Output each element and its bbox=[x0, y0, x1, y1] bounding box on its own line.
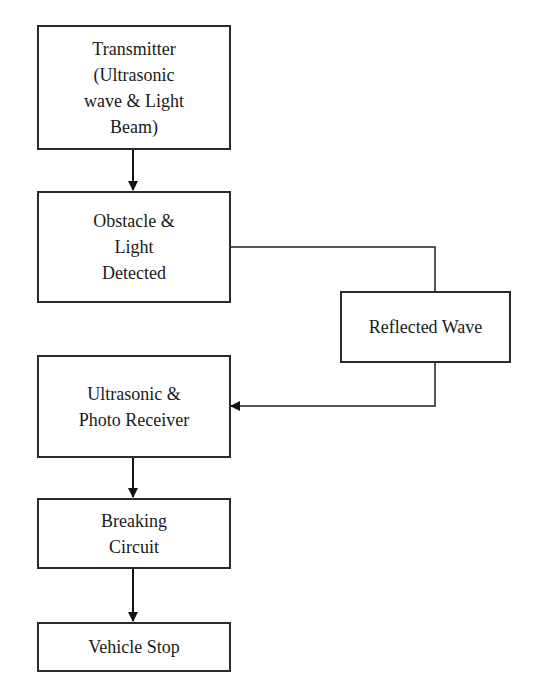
node-obstacle-detected: Obstacle & Light Detected bbox=[37, 191, 231, 303]
arrow-reflected-receiver bbox=[231, 362, 435, 406]
node-transmitter: Transmitter (Ultrasonic wave & Light Bea… bbox=[37, 25, 231, 150]
node-label: Reflected Wave bbox=[369, 314, 483, 340]
node-label: Vehicle Stop bbox=[88, 634, 180, 660]
node-breaking-circuit: Breaking Circuit bbox=[37, 498, 231, 569]
node-vehicle-stop: Vehicle Stop bbox=[37, 622, 231, 672]
node-label: Obstacle & Light Detected bbox=[93, 208, 174, 286]
node-label: Transmitter (Ultrasonic wave & Light Bea… bbox=[84, 36, 184, 140]
node-label: Breaking Circuit bbox=[101, 508, 167, 560]
node-label: Ultrasonic & Photo Receiver bbox=[79, 381, 189, 433]
node-reflected-wave: Reflected Wave bbox=[340, 291, 511, 363]
node-receiver: Ultrasonic & Photo Receiver bbox=[37, 355, 231, 458]
line-obstacle-reflected bbox=[230, 247, 435, 291]
